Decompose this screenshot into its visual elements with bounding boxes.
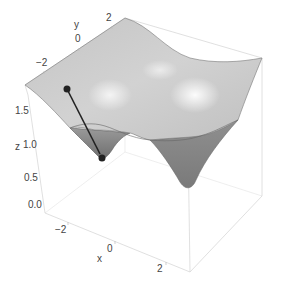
y-axis-title: y (74, 19, 79, 30)
y-tick-label: −2 (36, 57, 48, 68)
y-tick-label: 0 (75, 33, 81, 44)
surface-plot-3d: −2 0 2 y 1.5 1.0 z 0.5 0.0 −2 0 x 2 (0, 0, 281, 289)
x-tick-label: 2 (157, 263, 163, 274)
x-axis-title: x (97, 253, 102, 264)
z-axis: 1.5 1.0 z 0.5 0.0 (15, 105, 42, 210)
x-tick-label: −2 (55, 224, 67, 235)
x-tick-label: 0 (107, 243, 113, 254)
z-axis-title: z (15, 141, 20, 152)
z-tick-label: 1.5 (15, 105, 29, 116)
surface (25, 18, 262, 188)
y-tick-label: 2 (106, 12, 112, 23)
z-tick-label: 0.5 (24, 172, 38, 183)
z-tick-label: 1.0 (23, 139, 37, 150)
end-point (99, 155, 106, 162)
x-axis: −2 0 x 2 (55, 222, 166, 274)
z-tick-label: 0.0 (28, 199, 42, 210)
start-point (64, 86, 71, 93)
surface-top (25, 18, 262, 140)
